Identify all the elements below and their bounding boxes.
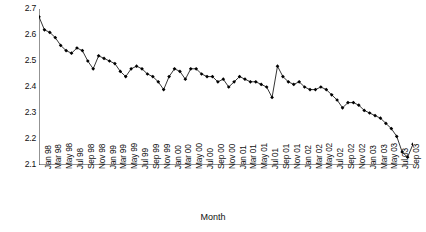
y-axis-tick-label: 2.6: [10, 29, 36, 39]
x-axis-tick-label: Sep 98: [86, 144, 96, 169]
x-axis-tick-label: Mar 99: [118, 144, 128, 169]
data-point-marker: [205, 75, 209, 79]
data-point-marker: [373, 114, 377, 118]
data-point-marker: [43, 28, 47, 32]
x-axis-tick-label: Jul 03: [400, 148, 410, 169]
data-point-marker: [243, 77, 247, 81]
x-axis-tick-label: Mar 01: [248, 144, 258, 169]
data-point-marker: [292, 83, 296, 87]
x-axis-tick-label: Jul 99: [140, 148, 150, 169]
chart-container: Total domestic circulation (millions) 2.…: [0, 0, 426, 232]
x-axis-tick-label: Jan 01: [238, 145, 248, 169]
x-axis-tick-label: Jan 00: [173, 145, 183, 169]
x-axis-tick-label: Sep 03: [411, 144, 421, 169]
data-point-marker: [97, 54, 101, 58]
x-axis-tick-label: Jul 00: [205, 148, 215, 169]
x-axis-tick-label: May 98: [64, 143, 74, 169]
data-point-marker: [259, 83, 263, 87]
x-axis-tick-label: May 01: [259, 143, 269, 169]
y-axis-tick-label: 2.4: [10, 81, 36, 91]
y-axis-tick-label: 2.2: [10, 133, 36, 143]
x-axis-tick-label: Nov 98: [97, 144, 107, 169]
data-point-marker: [308, 88, 312, 92]
data-point-marker: [108, 59, 112, 63]
series-line: [39, 17, 413, 157]
data-point-marker: [352, 101, 356, 105]
x-axis-title: Month: [0, 212, 426, 222]
x-axis-tick-label: Nov 02: [357, 144, 367, 169]
x-axis-tick-label: Jul 02: [335, 148, 345, 169]
x-axis-tick-label: Sep 00: [216, 144, 226, 169]
data-point-marker: [270, 96, 274, 100]
x-axis-tick-label: Mar 02: [314, 144, 324, 169]
x-axis-tick-label: Nov 99: [162, 144, 172, 169]
x-axis-tick-label: May 00: [194, 143, 204, 169]
y-axis-tick-label: 2.5: [10, 55, 36, 65]
data-point-marker: [189, 67, 193, 71]
x-axis-tick-label: Jan 98: [43, 145, 53, 169]
x-axis-tick-label: Jan 99: [108, 145, 118, 169]
x-axis-tick-label: Jul 01: [270, 148, 280, 169]
y-axis-tick-label: 2.7: [10, 3, 36, 13]
plot-area: [39, 9, 413, 165]
x-axis-tick-label: Jan 02: [303, 145, 313, 169]
x-axis-tick-label: Mar 00: [183, 144, 193, 169]
x-axis-tick-label: May 99: [129, 143, 139, 169]
data-point-marker: [102, 57, 106, 61]
x-axis-tick-label: Jul 98: [75, 148, 85, 169]
x-axis-tick-labels: Jan 98Mar 98May 98Jul 98Sep 98Nov 98Jan …: [0, 167, 426, 215]
line-chart-svg: [39, 9, 413, 165]
x-axis-tick-label: Sep 02: [346, 144, 356, 169]
x-axis-tick-label: Mar 03: [379, 144, 389, 169]
x-axis-tick-label: Nov 01: [292, 144, 302, 169]
data-point-marker: [81, 49, 85, 53]
data-point-marker: [135, 64, 139, 68]
x-axis-tick-label: Mar 98: [53, 144, 63, 169]
x-axis-tick-label: May 02: [324, 143, 334, 169]
data-point-marker: [249, 80, 253, 84]
x-axis-tick-label: Sep 01: [281, 144, 291, 169]
data-point-marker: [265, 85, 269, 89]
y-axis-tick-label: 2.3: [10, 107, 36, 117]
data-point-marker: [276, 64, 280, 68]
data-point-marker: [314, 88, 318, 92]
x-axis-tick-label: Nov 00: [227, 144, 237, 169]
data-point-marker: [368, 111, 372, 115]
x-axis-tick-label: May 03: [389, 143, 399, 169]
x-axis-tick-label: Sep 99: [151, 144, 161, 169]
x-axis-tick-label: Jan 03: [368, 145, 378, 169]
data-point-marker: [319, 85, 323, 89]
data-point-marker: [254, 80, 258, 84]
